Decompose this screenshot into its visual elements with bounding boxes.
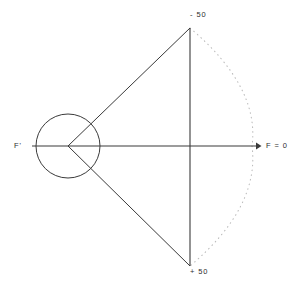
label-f-prime: F' (14, 142, 22, 150)
optical-ray-diagram: - 50 + 50 F = 0 F' (0, 0, 303, 295)
dotted-field-arc (190, 28, 253, 266)
label-minus-fifty: - 50 (190, 11, 207, 19)
label-f-equals-zero: F = 0 (266, 142, 288, 150)
lower-ray-line (68, 146, 190, 266)
diagram-canvas (0, 0, 303, 295)
axis-arrowhead (256, 143, 262, 150)
label-plus-fifty: + 50 (190, 268, 208, 276)
upper-ray-line (68, 28, 190, 146)
